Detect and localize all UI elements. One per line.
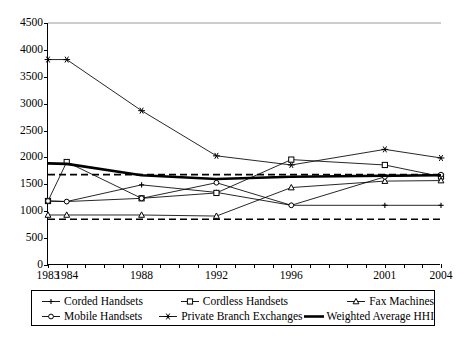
chart-legend: Corded Handsets Cordless Handsets Fax Ma… — [31, 290, 435, 326]
legend-row-1: Corded Handsets Cordless Handsets Fax Ma… — [40, 294, 434, 309]
x-axis-tick-mark — [385, 264, 386, 268]
x-axis-tick-mark — [366, 264, 367, 268]
y-axis-tick-mark — [44, 238, 48, 239]
data-point-marker — [64, 199, 69, 204]
legend-item-fax-machines: Fax Machines — [345, 296, 434, 308]
x-axis-tick-mark — [179, 264, 180, 268]
x-axis-tick-mark — [310, 264, 311, 268]
x-axis-tick-mark — [123, 264, 124, 268]
legend-row-2: Mobile Handsets Private Branch Exchanges… — [40, 309, 434, 324]
series-corded-handsets — [45, 182, 443, 208]
x-axis-tick-mark — [142, 264, 143, 268]
circle-marker-icon — [40, 311, 62, 322]
x-axis-tick-mark — [235, 264, 236, 268]
x-axis-tick-mark — [291, 264, 292, 268]
data-point-marker — [381, 146, 388, 152]
star-marker-icon — [157, 311, 179, 322]
data-point-marker — [214, 190, 219, 195]
legend-label: Cordless Handsets — [203, 296, 288, 308]
data-point-marker — [49, 314, 54, 319]
data-point-marker — [213, 153, 220, 159]
x-axis-tick-mark — [216, 264, 217, 268]
data-point-marker — [45, 57, 52, 63]
data-point-marker — [214, 180, 219, 185]
y-axis-tick-mark — [44, 131, 48, 132]
data-point-marker — [187, 299, 192, 304]
legend-item-corded-handsets: Corded Handsets — [40, 296, 179, 308]
x-axis-tick-mark — [254, 264, 255, 268]
x-axis-tick-mark — [160, 264, 161, 268]
x-axis-tick-label: 1984 — [55, 270, 78, 282]
data-point-marker — [48, 299, 53, 304]
legend-label: Corded Handsets — [64, 296, 143, 308]
y-axis-tick-mark — [44, 184, 48, 185]
chart-figure: 0500100015002000250030003500400045001983… — [0, 0, 464, 346]
legend-label: Fax Machines — [369, 296, 434, 308]
x-axis-tick-label: 1996 — [280, 270, 303, 282]
y-axis-tick-mark — [44, 157, 48, 158]
y-axis-tick-mark — [44, 211, 48, 212]
x-axis-tick-label: 2004 — [430, 270, 453, 282]
data-point-marker — [289, 203, 294, 208]
x-axis-tick-label: 2001 — [373, 270, 396, 282]
series-line — [48, 181, 441, 216]
legend-item-private-branch-exchanges: Private Branch Exchanges — [157, 311, 302, 323]
legend-label: Private Branch Exchanges — [181, 311, 302, 323]
x-axis-tick-label: 1988 — [130, 270, 153, 282]
data-point-marker — [139, 196, 144, 201]
series-line — [48, 185, 441, 205]
data-point-marker — [139, 182, 144, 187]
x-axis-tick-mark — [104, 264, 105, 268]
data-point-marker — [46, 199, 51, 204]
x-axis-tick-mark — [329, 264, 330, 268]
legend-label: Weighted Average HHI — [327, 311, 434, 323]
x-axis-tick-mark — [441, 264, 442, 268]
data-point-marker — [165, 314, 172, 320]
legend-item-weighted-average-hhi: Weighted Average HHI — [303, 311, 434, 323]
y-axis-tick-mark — [44, 23, 48, 24]
thick-line-marker-icon — [303, 311, 325, 322]
x-axis-tick-mark — [67, 264, 68, 268]
legend-item-mobile-handsets: Mobile Handsets — [40, 311, 157, 323]
legend-label: Mobile Handsets — [64, 311, 142, 323]
x-axis-tick-mark — [347, 264, 348, 268]
series-fax-machines — [45, 177, 444, 218]
x-axis-tick-mark — [422, 264, 423, 268]
x-axis-tick-mark — [198, 264, 199, 268]
x-axis-tick-mark — [48, 264, 49, 268]
x-axis-tick-mark — [85, 264, 86, 268]
data-point-marker — [288, 162, 295, 168]
cross-small-marker-icon — [40, 296, 62, 307]
plot-lines — [48, 23, 441, 265]
data-point-marker — [438, 155, 445, 161]
x-axis-tick-label: 1992 — [205, 270, 228, 282]
data-point-marker — [289, 157, 294, 162]
legend-item-cordless-handsets: Cordless Handsets — [179, 296, 345, 308]
y-axis-tick-mark — [44, 50, 48, 51]
x-axis-tick-mark — [273, 264, 274, 268]
y-axis-tick-mark — [44, 104, 48, 105]
data-point-marker — [382, 162, 387, 167]
data-point-marker — [438, 203, 443, 208]
plot-area: 0500100015002000250030003500400045001983… — [47, 23, 440, 265]
y-axis-tick-mark — [44, 77, 48, 78]
triangle-marker-icon — [345, 296, 367, 307]
square-marker-icon — [179, 296, 201, 307]
x-axis-tick-mark — [404, 264, 405, 268]
series-private-branch-exchanges — [45, 57, 445, 168]
data-point-marker — [382, 203, 387, 208]
